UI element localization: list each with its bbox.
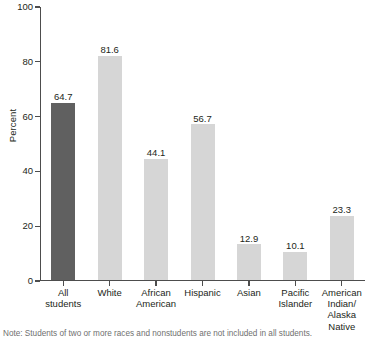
bar-value-label: 12.9 [225, 233, 273, 244]
bar-value-label: 23.3 [318, 204, 366, 215]
bar-value-label: 44.1 [132, 147, 180, 158]
y-tick-label: 100 [5, 1, 33, 12]
y-tick [35, 171, 40, 172]
bar-value-label: 64.7 [39, 91, 87, 102]
bar-value-label: 81.6 [86, 44, 134, 55]
category-label: Hispanic [177, 287, 229, 298]
bar[interactable] [98, 56, 122, 280]
x-tick [295, 281, 296, 286]
y-tick-label: 80 [5, 56, 33, 67]
y-tick [35, 280, 40, 281]
x-tick [109, 281, 110, 286]
bar-chart: Percent 64.781.644.156.712.910.123.3 020… [0, 0, 371, 337]
y-tick [35, 226, 40, 227]
bar[interactable] [51, 103, 75, 280]
category-label: American Indian/ Alaska Native [316, 287, 368, 332]
y-axis-line [40, 7, 41, 281]
chart-footnote: Note: Students of two or more races and … [3, 329, 312, 337]
y-tick-label: 40 [5, 165, 33, 176]
y-axis-title: Percent [7, 94, 18, 158]
category-label: African American [130, 287, 182, 309]
y-tick-label: 0 [5, 275, 33, 286]
bar[interactable] [237, 244, 261, 279]
bar-value-label: 56.7 [179, 113, 227, 124]
x-tick [63, 281, 64, 286]
plot-area: 64.781.644.156.712.910.123.3 [40, 7, 365, 281]
y-tick [35, 61, 40, 62]
category-label: Pacific Islander [269, 287, 321, 309]
x-tick [341, 281, 342, 286]
bar[interactable] [283, 252, 307, 280]
y-tick-label: 20 [5, 220, 33, 231]
bar-value-label: 10.1 [271, 240, 319, 251]
category-label: Asian [223, 287, 275, 298]
y-tick [35, 116, 40, 117]
category-label: All students [37, 287, 89, 309]
x-tick [155, 281, 156, 286]
y-tick-label: 60 [5, 111, 33, 122]
x-tick [202, 281, 203, 286]
category-label: White [84, 287, 136, 298]
y-tick [35, 6, 40, 7]
bar[interactable] [144, 159, 168, 280]
bar[interactable] [191, 124, 215, 279]
bar[interactable] [330, 216, 354, 280]
x-tick [248, 281, 249, 286]
